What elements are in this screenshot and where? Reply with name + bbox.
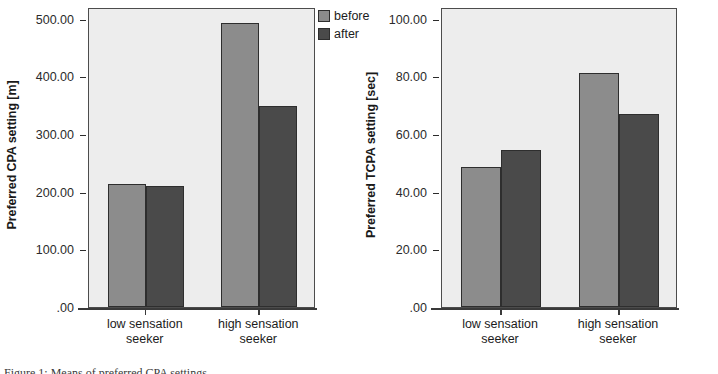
x-axis-category-label: high sensationseeker <box>559 317 677 347</box>
y-axis-tick-labels-tcpa: .0020.0040.0060.0080.00100.00 <box>369 0 427 374</box>
y-tick-mark <box>80 77 86 78</box>
y-tick-mark <box>433 193 439 194</box>
y-tick-mark <box>80 20 86 21</box>
x-label-line: seeker <box>88 332 202 347</box>
figure-caption-cpa: Figure 1: Means of preferred CPA setting… <box>4 366 207 374</box>
y-tick-mark <box>80 135 86 136</box>
x-label-line: seeker <box>559 332 677 347</box>
y-tick-label: 20.00 <box>396 244 427 257</box>
y-tick-mark <box>433 77 439 78</box>
legend-label-before: before <box>334 10 369 23</box>
y-tick-mark <box>433 20 439 21</box>
plot-area-tcpa <box>441 8 677 308</box>
y-tick-label: 80.00 <box>396 71 427 84</box>
y-tick-mark <box>433 250 439 251</box>
figure-pair: Preferred CPA setting [m] .00100.00200.0… <box>0 0 718 374</box>
y-tick-mark <box>80 250 86 251</box>
y-tick-label: 100.00 <box>36 244 74 257</box>
bar-before-high-sensation-seeker <box>221 23 259 307</box>
legend-swatch-icon-after <box>318 28 330 40</box>
x-label-line: high sensation <box>559 317 677 332</box>
y-axis-tick-labels-cpa: .00100.00200.00300.00400.00500.00 <box>16 0 74 374</box>
legend-item-before: before <box>318 8 404 24</box>
x-label-line: low sensation <box>88 317 202 332</box>
y-tick-mark <box>433 135 439 136</box>
bar-after-low-sensation-seeker <box>146 186 184 307</box>
x-axis-baseline <box>78 308 317 310</box>
x-label-line: high sensation <box>202 317 316 332</box>
y-tick-label: .00 <box>57 302 74 315</box>
legend-item-after: after <box>318 26 404 42</box>
y-tick-label: 300.00 <box>36 129 74 142</box>
y-tick-label: 60.00 <box>396 129 427 142</box>
x-axis-baseline <box>431 308 679 310</box>
chart-tcpa: Preferred TCPA setting [sec] .0020.0040.… <box>359 0 718 374</box>
x-label-line: seeker <box>202 332 316 347</box>
x-label-line: low sensation <box>441 317 559 332</box>
bar-after-high-sensation-seeker <box>619 114 659 307</box>
y-tick-label: 400.00 <box>36 71 74 84</box>
bar-before-low-sensation-seeker <box>461 167 501 307</box>
x-axis-category-label: low sensationseeker <box>88 317 202 347</box>
chart-cpa: Preferred CPA setting [m] .00100.00200.0… <box>0 0 359 374</box>
chart-legend: before after <box>318 8 404 44</box>
y-tick-label: .00 <box>410 302 427 315</box>
bar-after-high-sensation-seeker <box>259 106 297 307</box>
legend-label-after: after <box>334 28 359 41</box>
y-tick-mark <box>80 193 86 194</box>
legend-swatch-icon-before <box>318 10 330 22</box>
plot-area-cpa <box>88 8 315 308</box>
x-label-line: seeker <box>441 332 559 347</box>
bar-before-high-sensation-seeker <box>579 73 619 307</box>
bar-before-low-sensation-seeker <box>108 184 146 307</box>
y-tick-label: 200.00 <box>36 186 74 199</box>
y-tick-label: 40.00 <box>396 186 427 199</box>
bar-after-low-sensation-seeker <box>501 150 541 307</box>
y-tick-label: 500.00 <box>36 13 74 26</box>
x-axis-category-label: low sensationseeker <box>441 317 559 347</box>
x-axis-category-label: high sensationseeker <box>202 317 316 347</box>
